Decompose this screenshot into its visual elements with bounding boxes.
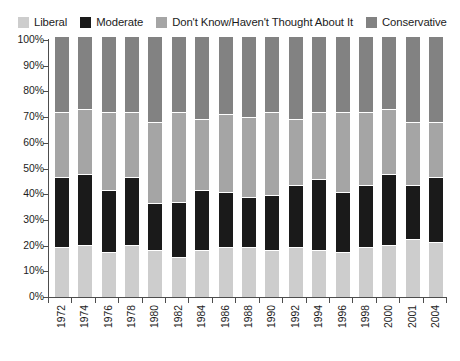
x-axis-tick-label: 1972 <box>57 305 67 328</box>
bar-segment-moderate <box>312 180 326 249</box>
bar-segment-don-t-know-haven-t-thought-about-it <box>125 113 139 177</box>
bar-column <box>359 37 373 297</box>
bar-segment-don-t-know-haven-t-thought-about-it <box>148 123 162 203</box>
bar-segment-liberal <box>219 248 233 297</box>
bar-segment-liberal <box>265 251 279 297</box>
bar-column <box>242 37 256 297</box>
bar-segment-don-t-know-haven-t-thought-about-it <box>219 115 233 192</box>
bar-segment-conservative <box>382 37 396 109</box>
bar-column <box>125 37 139 297</box>
bar-segment-moderate <box>359 186 373 248</box>
bar-segment-don-t-know-haven-t-thought-about-it <box>102 113 116 190</box>
legend-swatch-conservative <box>366 17 377 28</box>
bar-column <box>195 37 209 297</box>
bar-segment-conservative <box>359 37 373 112</box>
x-axis-labels: 1972197419761978198019821984198619881990… <box>48 305 447 359</box>
x-axis-tick-label: 1980 <box>150 305 160 328</box>
x-axis-tickmark <box>95 298 96 303</box>
x-axis-tickmark <box>48 298 49 303</box>
bar-column <box>336 37 350 297</box>
bar-segment-conservative <box>195 37 209 119</box>
bar-column <box>429 37 443 297</box>
bar-segment-don-t-know-haven-t-thought-about-it <box>265 113 279 195</box>
bar-segment-moderate <box>55 178 69 247</box>
bar-segment-don-t-know-haven-t-thought-about-it <box>336 113 350 193</box>
legend-label: Don't Know/Haven't Thought About It <box>172 17 353 28</box>
bar-segment-moderate <box>429 178 443 242</box>
bar-column <box>148 37 162 297</box>
legend-item-liberal: Liberal <box>18 17 67 28</box>
y-axis-tick-label: 0% <box>2 292 44 302</box>
bar-segment-moderate <box>289 186 303 248</box>
bar-segment-liberal <box>382 246 396 297</box>
bar-segment-conservative <box>289 37 303 119</box>
bar-segment-liberal <box>102 253 116 297</box>
bar-segment-moderate <box>336 193 350 252</box>
x-axis-tickmark <box>71 298 72 303</box>
legend-item-don-t-know-haven-t-thought-about-it: Don't Know/Haven't Thought About It <box>156 17 353 28</box>
x-axis-tick-label: 1986 <box>221 305 231 328</box>
bar-segment-conservative <box>429 37 443 122</box>
bar-segment-conservative <box>125 37 139 112</box>
y-axis-tick-label: 70% <box>2 112 44 122</box>
x-axis-tick-label: 1992 <box>291 305 301 328</box>
bar-segment-moderate <box>195 191 209 250</box>
x-axis-tick-label: 1974 <box>80 305 90 328</box>
bar-segment-moderate <box>382 175 396 244</box>
legend-item-conservative: Conservative <box>366 17 447 28</box>
bar-segment-conservative <box>265 37 279 112</box>
bar-segment-liberal <box>336 253 350 297</box>
bar-segment-liberal <box>289 248 303 297</box>
x-axis-tickmark <box>446 298 447 303</box>
bar-segment-liberal <box>55 248 69 297</box>
bar-segment-moderate <box>242 198 256 247</box>
bar-segment-conservative <box>336 37 350 112</box>
legend-swatch-liberal <box>18 17 29 28</box>
y-axis-tick-label: 100% <box>2 35 44 45</box>
bar-segment-don-t-know-haven-t-thought-about-it <box>382 110 396 174</box>
bar-segment-don-t-know-haven-t-thought-about-it <box>312 113 326 180</box>
x-axis-tick-label: 2001 <box>408 305 418 328</box>
bar-segment-conservative <box>406 37 420 122</box>
chart-legend: LiberalModerateDon't Know/Haven't Though… <box>18 13 450 31</box>
x-axis-tickmark <box>376 298 377 303</box>
x-axis-tickmark <box>306 298 307 303</box>
y-axis-tick-label: 10% <box>2 266 44 276</box>
x-axis-tick-label: 1988 <box>244 305 254 328</box>
bar-segment-moderate <box>172 203 186 257</box>
y-axis-tick-label: 40% <box>2 189 44 199</box>
y-axis-labels: 100%90%80%70%60%50%40%30%20%10%0% <box>0 40 44 298</box>
legend-label: Liberal <box>34 17 67 28</box>
x-axis-tick-label: 1994 <box>314 305 324 328</box>
bar-segment-conservative <box>148 37 162 122</box>
bar-segment-liberal <box>312 251 326 297</box>
bar-column <box>78 37 92 297</box>
legend-label: Conservative <box>382 17 447 28</box>
x-axis-tickmark <box>399 298 400 303</box>
x-axis-tick-label: 2004 <box>431 305 441 328</box>
x-axis-tickmark <box>212 298 213 303</box>
bar-segment-liberal <box>148 251 162 297</box>
x-axis-tick-label: 2000 <box>384 305 394 328</box>
legend-label: Moderate <box>96 17 143 28</box>
y-axis-tick-label: 80% <box>2 86 44 96</box>
bar-column <box>219 37 233 297</box>
bar-segment-moderate <box>102 191 116 253</box>
bar-segment-don-t-know-haven-t-thought-about-it <box>78 110 92 174</box>
x-axis-tick-label: 1998 <box>361 305 371 328</box>
x-axis-tick-label: 1978 <box>127 305 137 328</box>
bar-segment-conservative <box>102 37 116 112</box>
x-axis-tickmark <box>259 298 260 303</box>
bar-segment-liberal <box>78 246 92 297</box>
bar-segment-liberal <box>125 246 139 297</box>
bar-column <box>55 37 69 297</box>
bar-segment-don-t-know-haven-t-thought-about-it <box>242 118 256 198</box>
bar-segment-liberal <box>406 240 420 297</box>
y-axis-tick-label: 90% <box>2 61 44 71</box>
legend-swatch-moderate <box>80 17 91 28</box>
bar-segment-don-t-know-haven-t-thought-about-it <box>172 113 186 203</box>
x-axis-tickmark <box>352 298 353 303</box>
bar-segment-liberal <box>195 251 209 297</box>
bar-segment-don-t-know-haven-t-thought-about-it <box>55 113 69 177</box>
bar-segment-conservative <box>242 37 256 117</box>
